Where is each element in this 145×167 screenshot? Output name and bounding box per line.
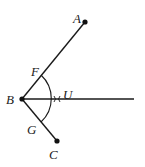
label-a: A bbox=[72, 11, 81, 26]
angle-bisector-diagram: A B C F G U bbox=[0, 0, 145, 167]
label-g: G bbox=[27, 122, 37, 137]
point-b-dot bbox=[19, 96, 24, 101]
label-b: B bbox=[6, 92, 14, 107]
point-a-dot bbox=[82, 19, 87, 24]
label-u: U bbox=[63, 87, 74, 102]
point-c-dot bbox=[54, 138, 59, 143]
segment-ba bbox=[22, 22, 85, 99]
label-c: C bbox=[49, 147, 58, 162]
label-f: F bbox=[30, 64, 40, 79]
